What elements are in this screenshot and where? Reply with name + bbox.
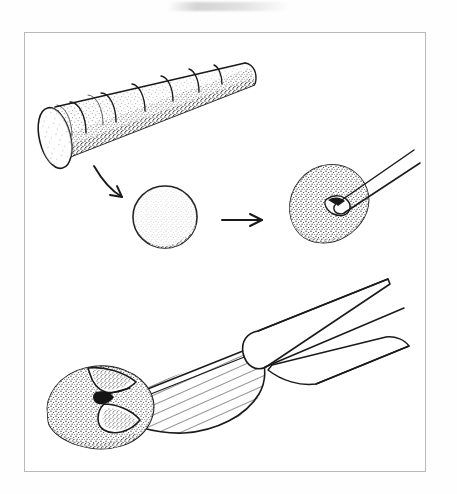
shaped-dough-piece xyxy=(284,160,376,252)
page-root xyxy=(0,0,457,494)
knife-handle xyxy=(243,279,409,384)
illustration-canvas xyxy=(0,0,457,494)
straight-arrow xyxy=(222,214,262,226)
cut-dough-piece xyxy=(40,360,156,460)
dough-cylinder xyxy=(30,55,270,172)
curved-arrow xyxy=(94,166,122,197)
dough-ball xyxy=(130,183,202,254)
